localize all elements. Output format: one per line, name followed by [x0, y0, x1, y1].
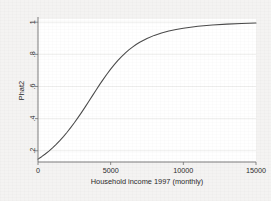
y-tick-label-1: .4 [29, 116, 38, 122]
y-axis-title: Phat2 [17, 81, 26, 100]
y-tick-label-0: .2 [29, 148, 38, 154]
y-tick-label-3: .8 [29, 51, 38, 57]
x-tick-label-3: 15000 [246, 166, 266, 175]
x-tick-label-2: 10000 [173, 166, 193, 175]
x-tick-label-0: 0 [36, 166, 40, 175]
x-axis-title: Household income 1997 (monthly) [91, 177, 204, 186]
y-tick-label-4: 1 [29, 20, 38, 24]
plot-background [38, 19, 256, 162]
plot-area-wrapper: .2.4.6.81050001000015000Household income… [0, 0, 271, 201]
figure-canvas: .2.4.6.81050001000015000Household income… [0, 0, 271, 201]
y-tick-label-2: .6 [29, 83, 38, 89]
logistic-probability-chart: .2.4.6.81050001000015000Household income… [0, 0, 271, 201]
x-tick-label-1: 5000 [103, 166, 119, 175]
